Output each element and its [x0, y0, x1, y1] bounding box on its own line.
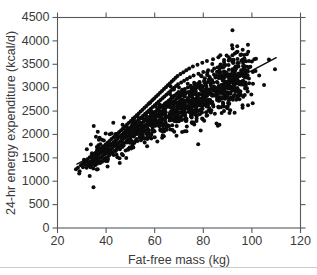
data-point: [122, 115, 126, 119]
data-point: [121, 123, 125, 127]
data-point: [222, 95, 226, 99]
y-tick-label: 3500: [22, 57, 50, 71]
data-point: [190, 115, 194, 119]
data-point: [186, 82, 190, 86]
y-tick-label: 2000: [22, 127, 50, 141]
data-point: [230, 43, 234, 47]
data-point: [205, 59, 209, 63]
data-point: [189, 85, 193, 89]
data-point: [204, 110, 208, 114]
data-point: [192, 123, 196, 127]
data-point: [241, 95, 245, 99]
data-point: [115, 155, 119, 159]
data-point: [242, 64, 246, 68]
data-point: [137, 117, 141, 121]
data-point: [213, 112, 217, 116]
data-point: [239, 82, 243, 86]
data-point: [177, 115, 181, 119]
data-point: [169, 84, 173, 88]
y-tick-label: 4500: [22, 10, 50, 24]
data-point: [112, 153, 116, 157]
data-point: [226, 101, 230, 105]
data-point: [148, 136, 152, 140]
data-point: [193, 109, 197, 113]
data-point: [95, 167, 99, 171]
data-point: [88, 174, 92, 178]
data-point: [170, 94, 174, 98]
x-axis-tick-labels: 20406080100120: [51, 234, 311, 248]
data-point: [199, 88, 203, 92]
data-point: [126, 148, 130, 152]
data-point: [248, 65, 252, 69]
data-point: [257, 74, 261, 78]
data-point: [206, 73, 210, 77]
data-point: [222, 58, 226, 62]
data-point: [236, 65, 240, 69]
data-point: [157, 104, 161, 108]
data-point: [251, 101, 255, 105]
data-point: [217, 123, 221, 127]
x-axis-title: Fat-free mass (kg): [128, 253, 230, 267]
data-point: [153, 111, 157, 115]
figure-container: 050010001500200025003000350040004500 204…: [0, 0, 317, 275]
data-point: [220, 111, 224, 115]
data-points-layer: [74, 28, 277, 189]
data-point: [191, 65, 195, 69]
data-point: [172, 130, 176, 134]
y-tick-label: 0: [43, 221, 50, 235]
data-point: [203, 81, 207, 85]
data-point: [232, 70, 236, 74]
data-point: [121, 153, 125, 157]
data-point: [196, 142, 200, 146]
data-point: [211, 57, 215, 61]
data-point: [222, 104, 226, 108]
data-point: [237, 71, 241, 75]
x-tick-label: 120: [290, 234, 311, 248]
data-point: [246, 43, 250, 47]
data-point: [136, 139, 140, 143]
data-point: [251, 82, 255, 86]
data-point: [241, 48, 245, 52]
data-point: [108, 132, 112, 136]
data-point: [155, 139, 159, 143]
x-tick-label: 80: [196, 234, 210, 248]
data-point: [192, 74, 196, 78]
data-point: [108, 149, 112, 153]
data-point: [249, 93, 253, 97]
data-point: [100, 160, 104, 164]
data-point: [231, 47, 235, 51]
y-tick-label: 1500: [22, 151, 50, 165]
data-point: [193, 85, 197, 89]
data-point: [96, 130, 100, 134]
y-tick-label: 2500: [22, 104, 50, 118]
data-point: [160, 129, 164, 133]
data-point: [171, 116, 175, 120]
y-axis-title: 24-hr energy expenditure (kcal/d): [4, 31, 18, 215]
data-point: [188, 75, 192, 79]
data-point: [236, 57, 240, 61]
data-point: [187, 66, 191, 70]
data-point: [254, 57, 258, 61]
y-tick-label: 500: [29, 197, 50, 211]
data-point: [199, 109, 203, 113]
data-point: [230, 53, 234, 57]
x-tick-label: 100: [241, 234, 262, 248]
data-point: [238, 91, 242, 95]
data-point: [231, 59, 235, 63]
data-point: [123, 128, 127, 132]
data-point: [104, 143, 108, 147]
data-point: [162, 134, 166, 138]
data-point: [185, 125, 189, 129]
data-point: [144, 131, 148, 135]
data-point: [94, 135, 98, 139]
data-point: [184, 117, 188, 121]
data-point: [149, 132, 153, 136]
scatter-chart: 050010001500200025003000350040004500 204…: [0, 0, 317, 275]
x-tick-label: 60: [148, 234, 162, 248]
data-point: [124, 156, 128, 160]
data-point: [196, 82, 200, 86]
data-point: [211, 102, 215, 106]
data-point: [200, 61, 204, 65]
data-point: [149, 110, 153, 114]
data-point: [211, 94, 215, 98]
